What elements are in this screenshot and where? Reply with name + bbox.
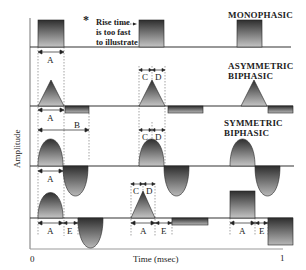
interval-c: C [142, 72, 148, 82]
x-axis-end: 1 [280, 253, 285, 263]
label-asymmetric-biphasic: BIPHASIC [228, 71, 273, 81]
x-axis-label: Time (msec) [133, 254, 178, 264]
interval-d: D [155, 72, 162, 82]
interval-c: C [142, 132, 148, 142]
asymmetric-biphasic-waveform [30, 80, 293, 113]
y-axis-label: Amplitude [12, 130, 22, 169]
interval-e: E [259, 226, 265, 236]
interval-e: E [161, 226, 167, 236]
interval-a: A [47, 174, 54, 184]
monophasic-waveform [30, 20, 291, 47]
note-line3: to illustrate [96, 37, 138, 47]
symmetric-biphasic-waveform [30, 139, 294, 196]
label-asymmetric: ASYMMETRIC [228, 61, 294, 71]
interval-a: A [47, 55, 54, 65]
interval-a: A [47, 226, 54, 236]
label-monophasic: MONOPHASIC [228, 10, 293, 20]
interphase-gap-waveform [30, 191, 293, 248]
interval-d: D [155, 132, 162, 142]
label-symmetric: SYMMETRIC [224, 118, 283, 128]
interval-a: A [140, 226, 147, 236]
interval-a: A [47, 113, 54, 123]
x-axis-start: 0 [30, 254, 35, 264]
interval-b: B [74, 120, 80, 130]
note-line2: is too fast [96, 27, 130, 37]
asterisk-icon: * [83, 15, 89, 25]
interval-d: D [146, 186, 153, 196]
interval-c: C [133, 186, 139, 196]
label-symmetric-biphasic: BIPHASIC [224, 128, 269, 138]
interval-a: A [239, 226, 246, 236]
note-line1: Rise time [96, 17, 130, 27]
interval-e: E [67, 226, 73, 236]
